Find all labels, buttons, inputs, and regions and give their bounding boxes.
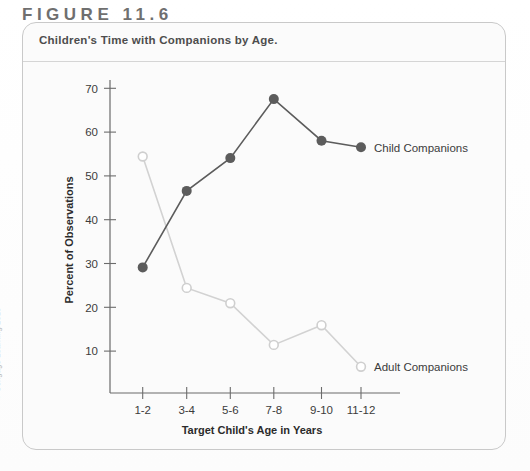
figure-card: Children's Time with Companions by Age. [22, 22, 506, 450]
figure-page: FIGURE 11.6 Children's Time with Compani… [0, 0, 530, 471]
copyright-notice: © Cengage Learning 2015 [0, 290, 2, 400]
card-divider [23, 61, 505, 62]
figure-caption: Children's Time with Companions by Age. [39, 34, 278, 46]
